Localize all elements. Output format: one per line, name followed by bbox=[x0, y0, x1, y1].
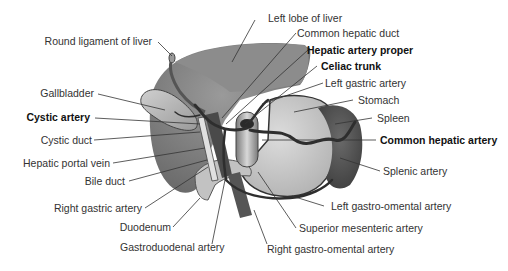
anatomy-diagram: Round ligament of liver Left lobe of liv… bbox=[0, 0, 508, 271]
label-superior-mesenteric-artery: Superior mesenteric artery bbox=[299, 222, 423, 234]
label-gastroduodenal-artery: Gastroduodenal artery bbox=[120, 241, 224, 253]
label-common-hepatic-duct: Common hepatic duct bbox=[297, 27, 399, 39]
label-spleen: Spleen bbox=[377, 112, 410, 124]
label-round-ligament: Round ligament of liver bbox=[45, 35, 152, 47]
label-left-gastro-omental-artery: Left gastro-omental artery bbox=[331, 200, 451, 212]
label-right-gastro-omental-artery: Right gastro-omental artery bbox=[267, 243, 394, 255]
left-gastric-artery bbox=[250, 100, 268, 122]
label-cystic-artery: Cystic artery bbox=[26, 111, 90, 123]
label-left-lobe-of-liver: Left lobe of liver bbox=[268, 12, 342, 24]
label-hepatic-artery-proper: Hepatic artery proper bbox=[307, 44, 413, 56]
label-stomach: Stomach bbox=[358, 94, 399, 106]
label-gallbladder: Gallbladder bbox=[40, 87, 94, 99]
label-bile-duct: Bile duct bbox=[85, 175, 125, 187]
label-common-hepatic-artery: Common hepatic artery bbox=[380, 134, 497, 146]
label-splenic-artery: Splenic artery bbox=[383, 165, 447, 177]
label-left-gastric-artery: Left gastric artery bbox=[325, 77, 406, 89]
label-hepatic-portal-vein: Hepatic portal vein bbox=[23, 157, 110, 169]
label-celiac-trunk: Celiac trunk bbox=[321, 60, 381, 72]
label-right-gastric-artery: Right gastric artery bbox=[54, 202, 142, 214]
label-cystic-duct: Cystic duct bbox=[41, 134, 92, 146]
label-duodenum: Duodenum bbox=[120, 221, 171, 233]
